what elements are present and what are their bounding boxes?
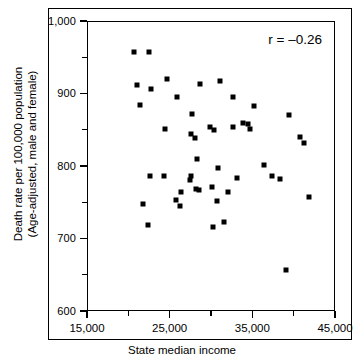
data-point	[306, 194, 311, 199]
data-point	[179, 190, 184, 195]
y-axis-title: Death rate per 100,000 population(Age-ad…	[11, 4, 39, 304]
data-point	[175, 94, 180, 99]
data-point	[215, 165, 220, 170]
y-axis-title-line2: (Age-adjusted, male and female)	[26, 71, 38, 238]
correlation-annotation: r = –0.26	[268, 32, 322, 47]
data-point	[148, 174, 153, 179]
data-point	[187, 178, 192, 183]
data-point	[297, 134, 302, 139]
data-point	[141, 201, 146, 206]
data-point	[192, 136, 197, 141]
data-point	[284, 267, 289, 272]
data-point	[270, 173, 275, 178]
data-point	[221, 220, 226, 225]
data-point	[147, 50, 152, 55]
data-point	[138, 103, 143, 108]
data-point	[286, 112, 291, 117]
data-point	[173, 197, 178, 202]
data-point	[214, 199, 219, 204]
plot-area: r = –0.26	[87, 21, 335, 311]
data-point	[145, 223, 150, 228]
y-axis-title-line1: Death rate per 100,000 population	[12, 67, 24, 242]
data-point	[162, 173, 167, 178]
data-point	[301, 141, 306, 146]
data-point	[211, 128, 216, 133]
data-point	[195, 157, 200, 162]
data-point	[132, 50, 137, 55]
data-point	[198, 81, 203, 86]
data-point	[231, 94, 236, 99]
data-point	[252, 104, 257, 109]
data-point	[234, 175, 239, 180]
data-point	[134, 83, 139, 88]
data-point	[196, 188, 201, 193]
scatter-plot-figure: r = –0.26 6007008009001,00015,00025,0003…	[0, 0, 364, 363]
data-point	[262, 162, 267, 167]
data-point	[148, 87, 153, 92]
data-point	[225, 189, 230, 194]
data-point	[277, 177, 282, 182]
data-point	[248, 126, 253, 131]
data-point	[218, 78, 223, 83]
data-point	[177, 204, 182, 209]
data-point	[190, 112, 195, 117]
data-point	[210, 184, 215, 189]
x-axis-title: State median income	[0, 344, 364, 357]
data-point	[165, 77, 170, 82]
data-point	[230, 125, 235, 130]
data-point	[162, 126, 167, 131]
data-point	[210, 225, 215, 230]
